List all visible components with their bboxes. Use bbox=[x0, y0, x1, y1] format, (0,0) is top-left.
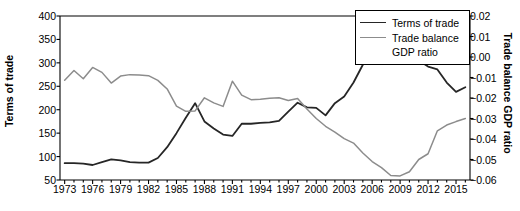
legend-item[interactable]: Trade balance bbox=[356, 30, 469, 45]
legend-label-continued: GDP ratio bbox=[356, 45, 469, 60]
chart-legend: Terms of tradeTrade balanceGDP ratio bbox=[355, 10, 470, 65]
legend-swatch-icon bbox=[360, 22, 386, 23]
legend-label: Trade balance bbox=[392, 32, 459, 44]
legend-swatch-icon bbox=[360, 37, 386, 38]
chart-figure: Terms of trade Trade balance GDP ratio 5… bbox=[0, 0, 520, 211]
legend-item[interactable]: Terms of trade bbox=[356, 15, 469, 30]
series-line-1 bbox=[65, 67, 466, 175]
legend-label: Terms of trade bbox=[392, 17, 459, 29]
